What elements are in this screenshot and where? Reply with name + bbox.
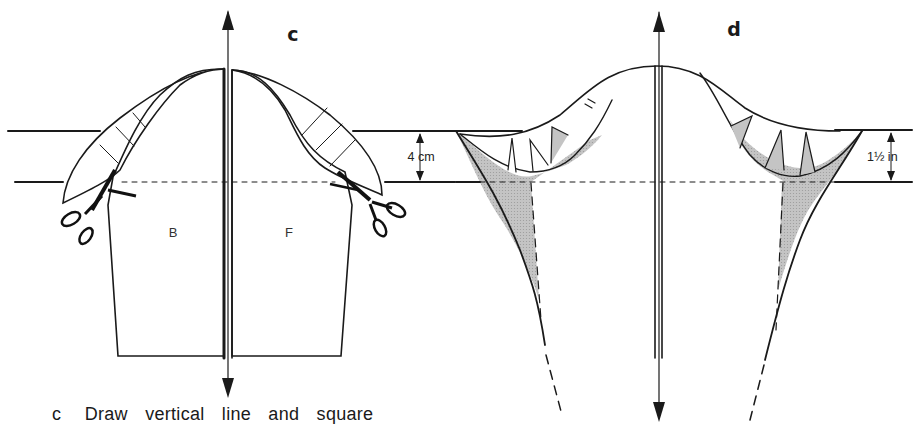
arrow-head-down-d [653, 402, 665, 422]
piece-label-front: F [285, 225, 293, 240]
arrow-head-up-c [222, 10, 234, 30]
panel-c [8, 10, 520, 398]
back-sleeve-piece [108, 69, 224, 356]
added-area-right [730, 120, 862, 290]
front-cap-extension [232, 70, 382, 195]
sleeve-cap-curve [460, 66, 840, 136]
back-cap-extension [63, 69, 224, 203]
arrow-head-down-c [222, 378, 234, 398]
caption-letter: c [52, 404, 61, 424]
piece-label-back: B [169, 225, 178, 240]
pattern-diagram: c B F 4 cm [0, 0, 915, 425]
arrow-head-up-d [653, 12, 665, 32]
front-sleeve-piece [232, 70, 352, 356]
panel-label-c: c [287, 23, 298, 45]
dimension-label-1-5in: 1½ in [867, 150, 898, 164]
scissors-icon [60, 170, 136, 246]
panel-label-d: d [727, 18, 741, 40]
dimension-label-4cm: 4 cm [407, 150, 434, 164]
figure-caption: c Draw vertical line and square [52, 404, 373, 425]
caption-text: Draw vertical line and square [85, 404, 374, 424]
panel-d [456, 12, 912, 422]
